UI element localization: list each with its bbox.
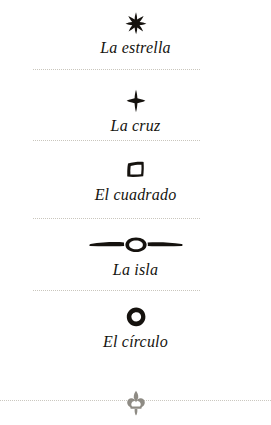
legend-caption: La estrella bbox=[0, 38, 271, 58]
divider-rule bbox=[33, 290, 200, 292]
divider-rule bbox=[33, 218, 200, 220]
divider-rule bbox=[33, 69, 200, 71]
legend-caption: La cruz bbox=[0, 116, 271, 136]
legend-entry-cruz: La cruz bbox=[0, 86, 271, 136]
square-icon bbox=[0, 155, 271, 185]
legend-entry-estrella: La estrella bbox=[0, 8, 271, 58]
island-icon bbox=[0, 230, 271, 260]
legend-entry-circulo: El círculo bbox=[0, 302, 271, 352]
cross-icon bbox=[0, 86, 271, 116]
legend-entry-isla: La isla bbox=[0, 230, 271, 280]
legend-page: La estrella La cruz El cuadrado bbox=[0, 0, 271, 425]
fleur-de-lis-icon bbox=[0, 388, 271, 416]
circle-icon bbox=[0, 302, 271, 332]
legend-caption: El círculo bbox=[0, 332, 271, 352]
divider-rule bbox=[33, 140, 200, 142]
legend-caption: La isla bbox=[0, 260, 271, 280]
legend-caption: El cuadrado bbox=[0, 185, 271, 205]
star-icon bbox=[0, 8, 271, 38]
legend-entry-cuadrado: El cuadrado bbox=[0, 155, 271, 205]
